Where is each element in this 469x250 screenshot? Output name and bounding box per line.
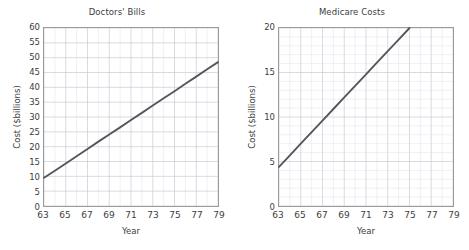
x-tick-label: 69 (103, 210, 114, 220)
x-axis-tick-labels: 636567697173757779 (278, 210, 454, 224)
x-tick-label: 65 (294, 210, 305, 220)
x-tick-label: 71 (360, 210, 371, 220)
chart-sheet: Doctors' Bills 051015202530354045505560 … (0, 0, 469, 250)
y-tick-label: 25 (29, 128, 40, 137)
data-line (279, 28, 453, 206)
x-tick-label: 79 (213, 210, 224, 220)
y-tick-label: 35 (29, 98, 40, 107)
x-tick-label: 71 (125, 210, 136, 220)
plot-area (278, 27, 454, 207)
x-tick-label: 67 (81, 210, 92, 220)
y-tick-label: 50 (29, 53, 40, 62)
x-tick-label: 77 (191, 210, 202, 220)
y-tick-label: 30 (29, 113, 40, 122)
x-tick-label: 65 (59, 210, 70, 220)
x-tick-label: 79 (448, 210, 459, 220)
y-tick-label: 10 (29, 173, 40, 182)
y-tick-label: 5 (35, 188, 40, 197)
x-tick-label: 73 (147, 210, 158, 220)
x-tick-label: 69 (338, 210, 349, 220)
chart-title: Doctors' Bills (0, 7, 234, 17)
y-tick-label: 10 (264, 113, 275, 122)
y-tick-label: 60 (29, 23, 40, 32)
data-line (44, 28, 218, 206)
chart-title: Medicare Costs (235, 7, 469, 17)
y-tick-label: 55 (29, 38, 40, 47)
y-tick-label: 40 (29, 83, 40, 92)
x-axis-title: Year (43, 226, 219, 236)
x-tick-label: 63 (37, 210, 48, 220)
x-tick-label: 75 (404, 210, 415, 220)
y-tick-label: 20 (264, 23, 275, 32)
x-axis-tick-labels: 636567697173757779 (43, 210, 219, 224)
x-tick-label: 67 (316, 210, 327, 220)
x-tick-label: 77 (426, 210, 437, 220)
x-tick-label: 75 (169, 210, 180, 220)
y-tick-label: 45 (29, 68, 40, 77)
y-tick-label: 5 (270, 158, 275, 167)
y-tick-label: 15 (29, 158, 40, 167)
chart-panel-medicare-costs: Medicare Costs 05101520 6365676971737577… (235, 0, 469, 250)
y-tick-label: 15 (264, 68, 275, 77)
plot-area (43, 27, 219, 207)
y-axis-title: Cost ($billions) (12, 62, 22, 172)
x-tick-label: 63 (272, 210, 283, 220)
chart-panel-doctors-bills: Doctors' Bills 051015202530354045505560 … (0, 0, 234, 250)
y-axis-title: Cost ($billions) (247, 62, 257, 172)
x-axis-title: Year (278, 226, 454, 236)
x-tick-label: 73 (382, 210, 393, 220)
y-tick-label: 20 (29, 143, 40, 152)
